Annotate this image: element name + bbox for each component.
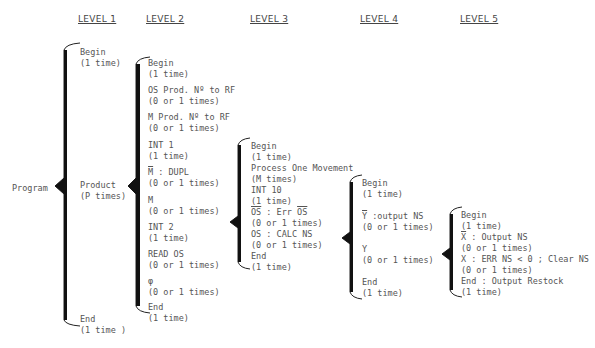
- root-node: Program: [12, 183, 48, 194]
- l5-xbar-count: (0 or 1 times): [461, 243, 533, 254]
- l3-int10-name: INT 10: [251, 185, 282, 196]
- l3-os-calc-count: (0 or 1 times): [251, 240, 323, 251]
- l3-end-name: End: [251, 251, 266, 262]
- l2-read-os-name: READ OS: [148, 249, 184, 260]
- l2-int2-count: (1 time): [148, 233, 189, 244]
- l3-begin-count: (1 time): [251, 152, 292, 163]
- l2-begin-count: (1 time): [148, 69, 189, 80]
- l1-end-count: (1 time ): [80, 325, 126, 336]
- l2-begin-name: Begin: [148, 58, 174, 69]
- l5-end-count: (1 time): [461, 287, 502, 298]
- l4-ybar-name: Y :output NS: [362, 211, 423, 222]
- l2-m-prod-name: M Prod. Nº to RF: [148, 112, 230, 123]
- l2-end-count: (1 time): [148, 313, 189, 324]
- l3-begin-name: Begin: [251, 141, 277, 152]
- l1-product-count: (P times): [80, 191, 126, 202]
- l2-m-count: (0 or 1 times): [148, 206, 220, 217]
- l5-x-name: X : ERR NS < 0 ; Clear NS: [461, 254, 589, 265]
- l2-phi-count: (0 or 1 times): [148, 287, 220, 298]
- l4-y-count: (0 or 1 times): [362, 255, 434, 266]
- l1-product-name: Product: [80, 180, 116, 191]
- l1-end-name: End: [80, 314, 95, 325]
- l4-begin-count: (1 time): [362, 189, 403, 200]
- l2-m-name: M: [148, 195, 153, 206]
- l4-end-name: End: [362, 277, 377, 288]
- l3-int10-count: (1 time): [251, 196, 292, 207]
- l1-begin-name: Begin: [80, 47, 106, 58]
- l4-y-name: Y: [362, 244, 367, 255]
- l2-int2-name: INT 2: [148, 222, 174, 233]
- l5-xbar-name: X : Output NS: [461, 232, 528, 243]
- l4-end-count: (1 time): [362, 288, 403, 299]
- l3-osbar-err-name: OS : Err OS: [251, 207, 307, 218]
- l3-osbar-err-count: (0 or 1 times): [251, 218, 323, 229]
- l4-ybar-count: (0 or 1 times): [362, 222, 434, 233]
- l5-begin-count: (1 time): [461, 221, 502, 232]
- l2-int1-name: INT 1: [148, 140, 174, 151]
- l3-os-calc-name: OS : CALC NS: [251, 229, 312, 240]
- l2-read-os-count: (0 or 1 times): [148, 260, 220, 271]
- l1-begin-count: (1 time): [80, 58, 121, 69]
- l2-mbar-dupl-count: (0 or 1 times): [148, 178, 220, 189]
- l2-os-prod-name: OS Prod. Nº to RF: [148, 85, 235, 96]
- l2-end-name: End: [148, 302, 163, 313]
- l4-begin-name: Begin: [362, 178, 388, 189]
- l3-process-count: (M times): [251, 174, 297, 185]
- l2-int1-count: (1 time): [148, 151, 189, 162]
- l3-end-count: (1 time): [251, 262, 292, 273]
- l2-mbar-dupl-name: M : DUPL: [148, 167, 189, 178]
- l2-os-prod-count: (0 or 1 times): [148, 96, 220, 107]
- l3-process-name: Process One Movement: [251, 163, 353, 174]
- l2-m-prod-count: (0 or 1 times): [148, 123, 220, 134]
- l5-begin-name: Begin: [461, 210, 487, 221]
- l5-end-name: End : Output Restock: [461, 276, 563, 287]
- l2-phi-name: φ: [148, 276, 153, 287]
- l5-x-count: (0 or 1 times): [461, 265, 533, 276]
